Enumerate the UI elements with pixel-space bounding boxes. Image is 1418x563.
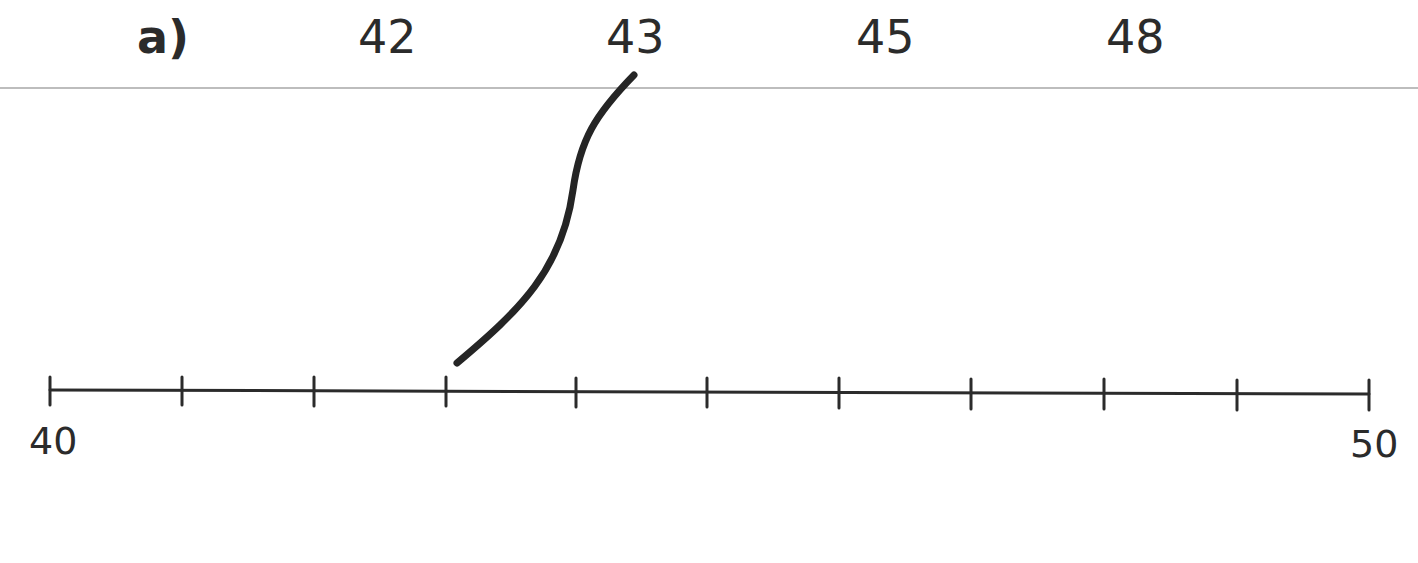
number-line <box>50 377 1369 410</box>
start-label: 40 <box>29 422 77 460</box>
number-line-diagram <box>0 0 1418 563</box>
end-label: 50 <box>1350 425 1398 463</box>
match-line-43 <box>457 75 634 363</box>
number-line-axis <box>50 390 1369 394</box>
